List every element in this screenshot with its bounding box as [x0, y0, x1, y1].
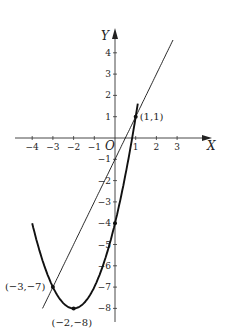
curves — [32, 40, 173, 308]
origin-label: O — [105, 139, 115, 153]
x-tick-label: −1 — [88, 142, 101, 152]
x-tick-label: −3 — [46, 142, 60, 152]
y-tick-label: 4 — [105, 48, 111, 58]
x-tick-label: −4 — [26, 142, 40, 152]
y-tick-label: −3 — [98, 197, 112, 207]
x-tick-label: 3 — [174, 142, 180, 152]
x-tick-label: −2 — [67, 142, 80, 152]
axes: XYO−4−3−2−11234321−1−2−3−4−5−6−7−8 — [15, 28, 216, 322]
point-marker — [113, 221, 117, 225]
y-axis-arrow-icon — [112, 28, 118, 39]
y-tick-label: −4 — [98, 218, 112, 228]
x-tick-label: 1 — [133, 142, 139, 152]
x-axis-label: X — [206, 139, 216, 153]
point-label: (1,1) — [140, 111, 164, 122]
function-graph: XYO−4−3−2−11234321−1−2−3−4−5−6−7−8 (1,1)… — [0, 0, 225, 335]
y-tick-label: 2 — [105, 90, 111, 100]
parabola-curve — [32, 104, 138, 309]
point-label: (−2,−8) — [52, 317, 93, 328]
y-tick-label: 1 — [105, 112, 111, 122]
y-axis-label: Y — [101, 29, 110, 43]
point-marker — [72, 306, 76, 310]
point-marker — [134, 115, 138, 119]
y-tick-label: −8 — [98, 303, 112, 313]
point-label: (−3,−7) — [5, 281, 46, 292]
x-tick-label: 2 — [154, 142, 160, 152]
y-tick-label: 3 — [105, 69, 111, 79]
point-marker — [51, 285, 55, 289]
y-tick-label: −7 — [98, 282, 112, 292]
y-tick-label: −1 — [98, 154, 111, 164]
